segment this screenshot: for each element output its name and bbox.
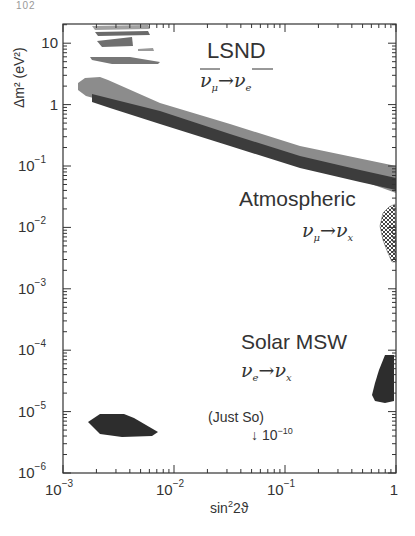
nu-symbol: ν [241, 359, 253, 381]
x-tick-labels: 10−310−210−11 [45, 478, 398, 498]
nu-symbol: ν [200, 69, 212, 91]
subscript-e: e [246, 82, 252, 93]
subscript-x: x [348, 232, 354, 243]
y-axis-title: Δm² (eV²) [11, 47, 27, 108]
lsnd-allowed-band-inner [92, 94, 396, 190]
arrow: → [258, 359, 274, 381]
subscript-x: x [286, 372, 292, 383]
tick-label: 10 [41, 34, 58, 51]
arrow: → [320, 219, 336, 241]
tick-label: 10−4 [18, 338, 47, 358]
lsnd-annotation: LSND νμ→νe [200, 38, 273, 93]
just-so-exponent: −10 [277, 426, 292, 436]
solar-msw-annotation: Solar MSW νe→νx [241, 330, 347, 383]
solar-msw-small-angle-region [88, 414, 158, 437]
nu-symbol: ν [336, 219, 348, 241]
tick-label: 10−1 [267, 478, 296, 498]
atmospheric-annotation: Atmospheric νμ→νx [239, 187, 356, 243]
lsnd-reaction: νμ→νe [200, 69, 252, 93]
tick-label: 10−6 [18, 461, 47, 481]
just-so-annotation: (Just So) ↓ 10−10 [208, 409, 293, 443]
nu-symbol: ν [234, 69, 246, 91]
down-arrow-value: ↓ 10 [251, 427, 278, 443]
x-axis-title-sin: sin [210, 500, 228, 516]
tick-label: 1 [50, 96, 58, 113]
just-so-value: ↓ 10−10 [251, 426, 293, 443]
nu-symbol: ν [274, 359, 286, 381]
lsnd-high-dm2-islands [90, 25, 160, 64]
tick-label: 10−3 [18, 277, 47, 297]
tick-label: 1 [390, 481, 398, 498]
lsnd-title: LSND [207, 38, 266, 63]
just-so-title: (Just So) [208, 409, 264, 425]
x-axis-title-rest: 2ϑ [233, 500, 249, 516]
tick-label: 10−3 [45, 478, 74, 498]
solar-msw-title: Solar MSW [241, 330, 347, 353]
x-axis-title: sin22ϑ [210, 499, 249, 516]
solar-msw-large-angle-region [372, 355, 394, 403]
oscillation-exclusion-plot: 10−610−510−410−310−210−1110 10−310−210−1… [0, 0, 415, 536]
arrow: → [218, 69, 234, 91]
solar-msw-reaction: νe→νx [241, 359, 292, 383]
tick-label: 10−5 [18, 400, 47, 420]
tick-label: 10−1 [18, 154, 47, 174]
atmospheric-title: Atmospheric [239, 187, 356, 210]
tick-label: 10−2 [156, 478, 185, 498]
atmospheric-reaction: νμ→νx [302, 219, 354, 243]
nu-symbol: ν [302, 219, 314, 241]
tick-label: 10−2 [18, 215, 47, 235]
